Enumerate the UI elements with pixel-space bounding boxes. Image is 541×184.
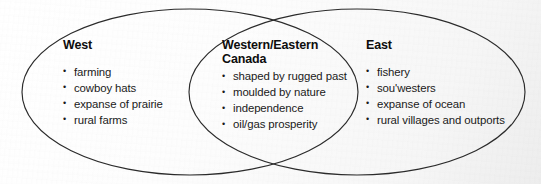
venn-diagram: West farming cowboy hats expanse of prai…: [0, 0, 541, 184]
venn-region-overlap-heading-line1: Western/Eastern: [222, 39, 362, 53]
list-item: independence: [222, 100, 362, 116]
venn-region-east-heading: East: [366, 39, 531, 53]
list-item: expanse of prairie: [63, 96, 198, 112]
list-item: cowboy hats: [63, 80, 198, 96]
venn-region-overlap: Western/Eastern Canada shaped by rugged …: [222, 39, 362, 132]
venn-region-east-list: fishery sou'westers expanse of ocean rur…: [366, 64, 531, 128]
list-item: shaped by rugged past: [222, 68, 362, 84]
venn-region-overlap-list: shaped by rugged past moulded by nature …: [222, 68, 362, 132]
venn-region-west: West farming cowboy hats expanse of prai…: [63, 39, 198, 128]
venn-region-west-list: farming cowboy hats expanse of prairie r…: [63, 64, 198, 128]
list-item: moulded by nature: [222, 84, 362, 100]
venn-region-east: East fishery sou'westers expanse of ocea…: [366, 39, 531, 128]
list-item: farming: [63, 64, 198, 80]
list-item: fishery: [366, 64, 531, 80]
list-item: expanse of ocean: [366, 96, 531, 112]
list-item: rural villages and outports: [366, 112, 531, 128]
list-item: sou'westers: [366, 80, 531, 96]
venn-region-west-heading: West: [63, 39, 198, 53]
venn-region-overlap-heading-line2: Canada: [222, 53, 362, 67]
list-item: rural farms: [63, 112, 198, 128]
list-item: oil/gas prosperity: [222, 116, 362, 132]
